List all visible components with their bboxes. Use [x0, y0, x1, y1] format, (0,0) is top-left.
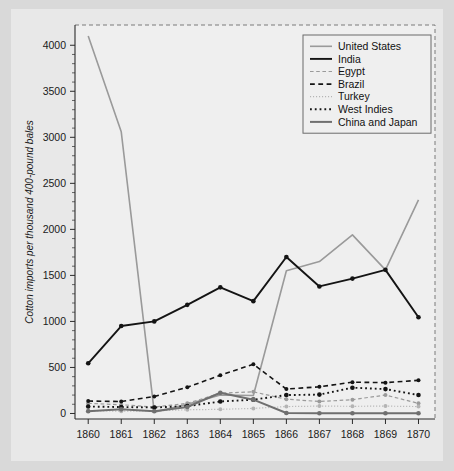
data-point [251, 362, 255, 366]
data-point [317, 400, 321, 404]
y-tick-label: 2000 [43, 223, 67, 235]
data-point [218, 399, 223, 404]
data-point [284, 397, 288, 401]
data-point [350, 276, 355, 281]
data-point [86, 361, 91, 366]
data-point [350, 385, 355, 390]
y-axis-title: Cotton imports per thousand 400-pound ba… [24, 120, 35, 323]
y-tick-label: 500 [48, 361, 66, 373]
data-point [218, 407, 222, 411]
y-tick-label: 3000 [43, 131, 67, 143]
data-point [185, 385, 189, 389]
data-point [218, 285, 223, 290]
x-tick-label: 1869 [374, 428, 398, 440]
data-point [284, 393, 289, 398]
x-tick-label: 1865 [242, 428, 266, 440]
data-point [284, 411, 289, 416]
cotton-imports-line-chart: 0500100015002000250030003500400018601861… [11, 9, 443, 461]
legend-label: China and Japan [338, 116, 418, 128]
data-point [119, 407, 124, 412]
legend-label: West Indies [338, 103, 393, 115]
data-point [218, 373, 222, 377]
data-point [152, 319, 157, 324]
y-tick-label: 0 [60, 407, 66, 419]
chart-legend: United StatesIndiaEgyptBrazilTurkeyWest … [303, 35, 431, 133]
x-tick-label: 1866 [275, 428, 299, 440]
x-tick-label: 1868 [341, 428, 365, 440]
data-point [119, 324, 124, 329]
legend-label: United States [338, 40, 401, 52]
data-point [251, 390, 255, 394]
data-point [416, 378, 420, 382]
legend-label: Egypt [338, 65, 365, 77]
legend-label: Brazil [338, 78, 364, 90]
data-point [317, 411, 322, 416]
data-point [218, 390, 223, 395]
x-tick-label: 1861 [110, 428, 134, 440]
data-point [251, 406, 255, 410]
data-point [383, 393, 387, 397]
data-point [251, 299, 256, 304]
data-point [119, 400, 123, 404]
x-tick-label: 1860 [77, 428, 101, 440]
y-tick-label: 1500 [43, 269, 67, 281]
x-tick-label: 1863 [176, 428, 200, 440]
data-point [86, 399, 90, 403]
legend-label: Turkey [338, 90, 370, 102]
data-point [416, 405, 420, 409]
data-point [383, 387, 388, 392]
y-tick-label: 4000 [43, 39, 67, 51]
y-tick-label: 1000 [43, 315, 67, 327]
y-tick-label: 2500 [43, 177, 67, 189]
data-point [416, 315, 421, 320]
data-point [383, 411, 388, 416]
data-point [317, 392, 322, 397]
data-point [284, 255, 289, 260]
data-point [350, 411, 355, 416]
data-point [350, 380, 354, 384]
data-point [152, 394, 156, 398]
chart-figure: 0500100015002000250030003500400018601861… [11, 9, 443, 461]
data-point [86, 404, 91, 409]
data-point [86, 409, 91, 414]
x-tick-label: 1870 [407, 428, 431, 440]
data-point [416, 411, 421, 416]
x-tick-label: 1862 [143, 428, 167, 440]
data-point [185, 405, 190, 410]
data-point [416, 393, 421, 398]
data-point [284, 387, 288, 391]
x-tick-label: 1867 [308, 428, 332, 440]
data-point [284, 405, 288, 409]
data-point [383, 268, 388, 273]
data-point [317, 284, 322, 289]
y-tick-label: 3500 [43, 85, 67, 97]
legend-label: India [338, 53, 361, 65]
data-point [317, 385, 321, 389]
data-point [251, 397, 256, 402]
data-point [383, 381, 387, 385]
data-point [317, 404, 321, 408]
x-tick-label: 1864 [209, 428, 233, 440]
data-point [152, 409, 157, 414]
data-point [185, 303, 190, 308]
data-point [350, 404, 354, 408]
data-point [350, 398, 354, 402]
data-point [383, 404, 387, 408]
